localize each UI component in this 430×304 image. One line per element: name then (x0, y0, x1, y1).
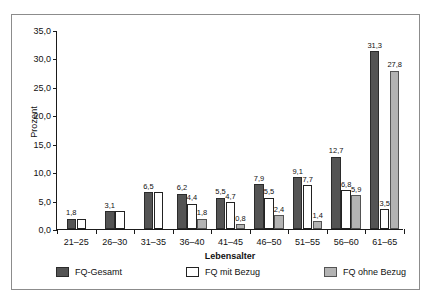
y-axis-tick-mark (53, 173, 57, 174)
y-axis-tick-mark (53, 88, 57, 89)
x-axis-tick-label: 31–35 (141, 237, 166, 247)
bar-rect (67, 219, 77, 229)
y-axis-tick-label: 10,0 (17, 168, 57, 178)
legend-item: FQ mit Bezug (186, 267, 260, 277)
legend-swatch-icon (324, 267, 337, 277)
scan-top-text-sliver (0, 0, 430, 5)
bar-rect (187, 204, 197, 229)
y-axis-tick-label: 35,0 (17, 26, 57, 36)
legend-item: FQ-Gesamt (56, 267, 122, 277)
x-axis-tick-mark (57, 229, 58, 234)
x-axis-tick-mark (134, 229, 135, 234)
bar-rect (216, 198, 226, 229)
y-axis-tick-mark (53, 145, 57, 146)
bar-value-label: 7,9 (254, 174, 264, 183)
bar-rect (341, 190, 351, 229)
x-axis-tick-label: 56–60 (334, 237, 359, 247)
bar-value-label: 5,5 (264, 187, 274, 196)
bar-rect (303, 185, 313, 229)
bar: 12,7 (331, 30, 341, 229)
bar-rect (331, 157, 341, 229)
y-axis-tick-mark (53, 59, 57, 60)
legend-swatch-icon (186, 267, 199, 277)
bar: 5,9 (351, 30, 361, 229)
bar: 1,8 (197, 30, 207, 229)
bar-rect (380, 209, 390, 229)
bar-rect (293, 177, 303, 229)
bar-rect (154, 192, 164, 229)
x-axis-tick-mark (404, 229, 405, 234)
bar: 0,8 (236, 30, 246, 229)
bar: 3,1 (105, 30, 115, 229)
legend-label: FQ ohne Bezug (343, 267, 406, 277)
y-axis-tick-label: 25,0 (17, 83, 57, 93)
x-axis-tick-mark (96, 229, 97, 234)
bar: 5,5 (216, 30, 226, 229)
bar-rect (274, 215, 284, 229)
bar: 6,8 (341, 30, 351, 229)
bar-rect (115, 211, 125, 229)
bar-value-label: 6,2 (177, 183, 187, 192)
bar: 6,5 (144, 30, 154, 229)
y-axis-tick-label: 0,0 (17, 225, 57, 235)
bar (77, 30, 87, 229)
x-axis-tick-label: 26–30 (102, 237, 127, 247)
x-axis-tick-mark (327, 229, 328, 234)
x-axis-tick-mark (173, 229, 174, 234)
bar-value-label: 4,4 (187, 193, 197, 202)
bar: 6,2 (177, 30, 187, 229)
bar-value-label: 3,1 (105, 201, 115, 210)
bar-value-label: 7,7 (302, 175, 312, 184)
legend-swatch-icon (56, 267, 69, 277)
bar: 1,8 (67, 30, 77, 229)
bar-value-label: 4,7 (225, 192, 235, 201)
bar-value-label: 6,8 (341, 180, 351, 189)
x-axis-title: Lebensalter (57, 251, 403, 261)
y-axis-tick-label: 15,0 (17, 140, 57, 150)
x-axis-tick-mark (211, 229, 212, 234)
bar-rect (177, 194, 187, 229)
bar: 4,4 (187, 30, 197, 229)
bar-value-label: 5,5 (215, 187, 225, 196)
y-axis-tick-label: 5,0 (17, 197, 57, 207)
bar-rect (144, 192, 154, 229)
bar-rect (254, 184, 264, 229)
x-axis-tick-label: 61–65 (372, 237, 397, 247)
chart-figure-frame: Prozent 0,05,010,015,020,025,030,035,0 2… (11, 14, 420, 290)
bar-value-label: 1,8 (66, 208, 76, 217)
bar-value-label: 3,5 (380, 199, 390, 208)
x-axis-tick-label: 36–40 (179, 237, 204, 247)
bar: 1,4 (313, 30, 323, 229)
y-axis-tick-mark (53, 31, 57, 32)
bar-rect (390, 71, 400, 229)
bar: 31,3 (370, 30, 380, 229)
x-axis-tick-label: 21–25 (64, 237, 89, 247)
bar: 2,4 (274, 30, 284, 229)
bar-rect (370, 51, 380, 229)
bar-value-label: 2,4 (274, 205, 284, 214)
bar-value-label: 27,8 (387, 60, 402, 69)
x-axis-tick-mark (288, 229, 289, 234)
bar-value-label: 1,8 (197, 208, 207, 217)
x-axis-tick-mark (365, 229, 366, 234)
bar-rect (313, 221, 323, 229)
bar-rect (264, 198, 274, 229)
bar: 9,1 (293, 30, 303, 229)
x-axis-tick-label: 51–55 (295, 237, 320, 247)
bar-value-label: 1,4 (312, 211, 322, 220)
bar-rect (236, 224, 246, 229)
y-axis-tick-mark (53, 202, 57, 203)
bar-rect (197, 219, 207, 229)
chart-legend: FQ-GesamtFQ mit BezugFQ ohne Bezug (56, 267, 406, 277)
bar: 5,5 (264, 30, 274, 229)
legend-item: FQ ohne Bezug (324, 267, 406, 277)
bar-value-label: 0,8 (235, 214, 245, 223)
x-axis-tick-mark (250, 229, 251, 234)
y-axis-title: Prozent (29, 82, 39, 162)
bar: 4,7 (226, 30, 236, 229)
x-axis-tick-label: 46–50 (257, 237, 282, 247)
bar (154, 30, 164, 229)
bar: 7,9 (254, 30, 264, 229)
legend-label: FQ mit Bezug (205, 267, 260, 277)
y-axis-tick-label: 20,0 (17, 111, 57, 121)
